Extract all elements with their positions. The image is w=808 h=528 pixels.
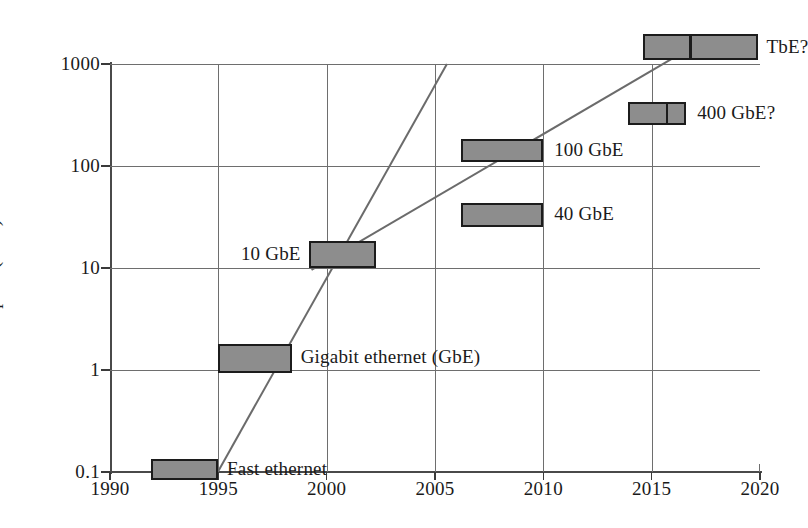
x-tick-mark <box>759 472 760 480</box>
y-tick-label: 100 <box>71 155 100 177</box>
x-tick-label: 2020 <box>740 478 779 500</box>
box-annotation: Gigabit ethernet (GbE) <box>301 346 481 368</box>
x-tick-label: 2000 <box>307 478 346 500</box>
x-tick-mark <box>543 472 544 480</box>
gridline-vertical <box>652 64 653 472</box>
data-box <box>309 241 376 268</box>
y-tick-mark <box>101 369 110 371</box>
x-tick-mark <box>326 472 327 480</box>
x-tick-mark <box>651 472 652 480</box>
x-tick-mark <box>109 472 110 480</box>
y-tick-mark <box>101 165 110 167</box>
data-box <box>151 459 218 481</box>
gridline-vertical <box>435 64 436 472</box>
box-annotation: TbE? <box>767 36 808 58</box>
box-annotation: 100 GbE <box>554 139 623 161</box>
data-box-divider <box>689 34 691 60</box>
data-box <box>643 34 758 59</box>
x-tick-label: 2015 <box>632 478 671 500</box>
data-box <box>461 203 543 227</box>
x-tick-mark <box>218 472 219 480</box>
box-annotation: Fast ethernet <box>227 458 327 480</box>
data-box <box>461 139 543 162</box>
gridline-vertical <box>543 64 544 472</box>
y-tick-label: 1000 <box>61 53 100 75</box>
x-tick-label: 2010 <box>524 478 563 500</box>
box-annotation: 40 GbE <box>554 203 614 225</box>
box-annotation: 10 GbE <box>241 243 301 265</box>
x-tick-label: 2005 <box>415 478 454 500</box>
data-box <box>628 102 687 124</box>
y-tick-mark <box>101 267 110 269</box>
plot-area: Fast ethernetGigabit ethernet (GbE)10 Gb… <box>110 64 760 472</box>
data-box-divider <box>666 102 668 124</box>
y-tick-mark <box>101 63 110 65</box>
data-box <box>218 344 292 373</box>
y-axis-title: Link Speed (Gb/s) <box>0 220 4 360</box>
x-tick-label: 1995 <box>199 478 238 500</box>
gridline-vertical <box>327 64 328 472</box>
trend-line-shallow-trend <box>312 54 680 270</box>
y-tick-label: 1 <box>90 359 100 381</box>
y-tick-label: 10 <box>80 257 100 279</box>
x-tick-label: 1990 <box>90 478 129 500</box>
x-tick-mark <box>434 472 435 480</box>
gridline-vertical <box>218 64 219 472</box>
gridline-vertical <box>759 464 760 472</box>
box-annotation: 400 GbE? <box>697 102 775 124</box>
